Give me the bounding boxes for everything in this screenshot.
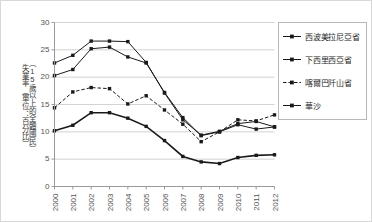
legend-label: 華沙 — [305, 100, 321, 111]
series-marker — [71, 68, 74, 71]
y-tick-label: 15 — [41, 100, 50, 109]
x-tick-label: 2000 — [51, 193, 60, 211]
series-marker — [254, 127, 257, 130]
legend-item[interactable]: 下西里西亞省 — [282, 51, 366, 69]
x-tick-label: 2001 — [69, 193, 78, 211]
series-marker — [144, 61, 147, 64]
x-tick-label: 2006 — [161, 193, 170, 211]
series-marker — [126, 55, 129, 58]
series-marker — [71, 90, 74, 93]
series-marker — [108, 45, 111, 48]
legend-swatch-icon — [282, 55, 302, 64]
x-tick-label: 2003 — [106, 193, 115, 211]
x-tick-label: 2004 — [124, 193, 133, 211]
series-marker — [218, 162, 221, 165]
x-tick-label: 2002 — [87, 193, 96, 211]
series-marker — [236, 156, 239, 159]
series-marker — [181, 118, 184, 121]
y-tick-label: 30 — [41, 18, 50, 27]
legend-item[interactable]: 西波美拉尼亞省 — [282, 28, 366, 46]
chart-figure: 失業率（單位：百分比） （15歲以上的全體國民） 051015202530 20… — [0, 0, 372, 222]
y-tick-label: 0 — [45, 182, 50, 191]
x-tick-label: 2011 — [252, 193, 261, 211]
series-marker — [236, 122, 239, 125]
series-marker — [199, 160, 202, 163]
series-marker — [89, 39, 92, 42]
series-marker — [89, 111, 92, 114]
x-tick-label: 2005 — [142, 193, 151, 211]
series-marker — [181, 122, 184, 125]
series-marker — [254, 154, 257, 157]
series-marker — [273, 125, 276, 128]
y-tick-label: 20 — [41, 72, 50, 81]
series-marker — [181, 155, 184, 158]
x-tick-label: 2012 — [271, 193, 280, 211]
series-marker — [236, 118, 239, 121]
y-tick-label: 25 — [41, 45, 50, 54]
series-marker — [273, 113, 276, 116]
series-marker — [163, 91, 166, 94]
chart-legend: 西波美拉尼亞省下西里西亞省喀爾巴阡山省華沙 — [278, 22, 367, 120]
data-series-group — [53, 39, 276, 165]
series-marker — [108, 111, 111, 114]
series-marker — [218, 130, 221, 133]
series-marker — [71, 54, 74, 57]
x-tick-label: 2008 — [197, 193, 206, 211]
legend-label: 喀爾巴阡山省 — [305, 77, 352, 88]
x-tick-label: 2007 — [179, 193, 188, 211]
legend-swatch-icon — [282, 101, 302, 110]
series-marker — [199, 140, 202, 143]
x-tick-label: 2009 — [216, 193, 225, 211]
series-marker — [163, 108, 166, 111]
series-marker — [144, 94, 147, 97]
series-marker — [144, 125, 147, 128]
legend-swatch-icon — [282, 78, 302, 87]
series-marker — [126, 102, 129, 105]
legend-label: 西波美拉尼亞省 — [305, 31, 360, 42]
series-marker — [126, 40, 129, 43]
series-marker — [108, 39, 111, 42]
y-tick-label: 5 — [45, 154, 50, 163]
series-marker — [273, 153, 276, 156]
series-marker — [71, 124, 74, 127]
series-marker — [126, 116, 129, 119]
series-line — [55, 113, 275, 164]
y-axis-ticks: 051015202530 — [41, 18, 55, 191]
series-marker — [254, 119, 257, 122]
legend-swatch-icon — [282, 32, 302, 41]
y-tick-label: 10 — [41, 127, 50, 136]
data-series — [53, 111, 276, 165]
series-marker — [199, 133, 202, 136]
legend-label: 下西里西亞省 — [305, 54, 352, 65]
series-marker — [163, 139, 166, 142]
x-axis-ticks: 2000200120022003200420052006200720082009… — [51, 187, 280, 212]
legend-item[interactable]: 喀爾巴阡山省 — [282, 74, 366, 92]
series-marker — [108, 87, 111, 90]
legend-item[interactable]: 華沙 — [282, 97, 366, 115]
series-marker — [89, 47, 92, 50]
x-tick-label: 2010 — [234, 193, 243, 211]
series-marker — [89, 86, 92, 89]
